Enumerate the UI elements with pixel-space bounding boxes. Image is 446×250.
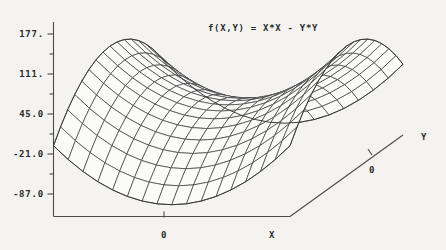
y-tick-label: 0 — [369, 165, 375, 175]
z-tick-label: -87.0 — [13, 189, 44, 199]
surface-mesh — [54, 39, 404, 205]
y-axis-ticks — [368, 149, 372, 155]
plot-title: f(X,Y) = X*X - Y*Y — [208, 23, 318, 33]
surface-plot-figure: 177. 111. 45.0 -21.0 -87.0 0 X 0 Y f(X,Y… — [0, 0, 446, 250]
z-tick-label: 111. — [19, 69, 44, 79]
z-tick-label: 177. — [19, 29, 44, 39]
z-axis-ticks — [48, 34, 54, 194]
x-tick-label: 0 — [161, 230, 167, 240]
y-tick-zero — [368, 149, 372, 155]
x-axis-title: X — [269, 230, 275, 240]
z-tick-label: 45.0 — [19, 109, 44, 119]
y-axis-depth-line — [290, 135, 403, 217]
plot-canvas: 177. 111. 45.0 -21.0 -87.0 0 X 0 Y f(X,Y… — [0, 0, 446, 250]
z-tick-label: -21.0 — [13, 149, 44, 159]
y-axis-title: Y — [421, 132, 427, 142]
